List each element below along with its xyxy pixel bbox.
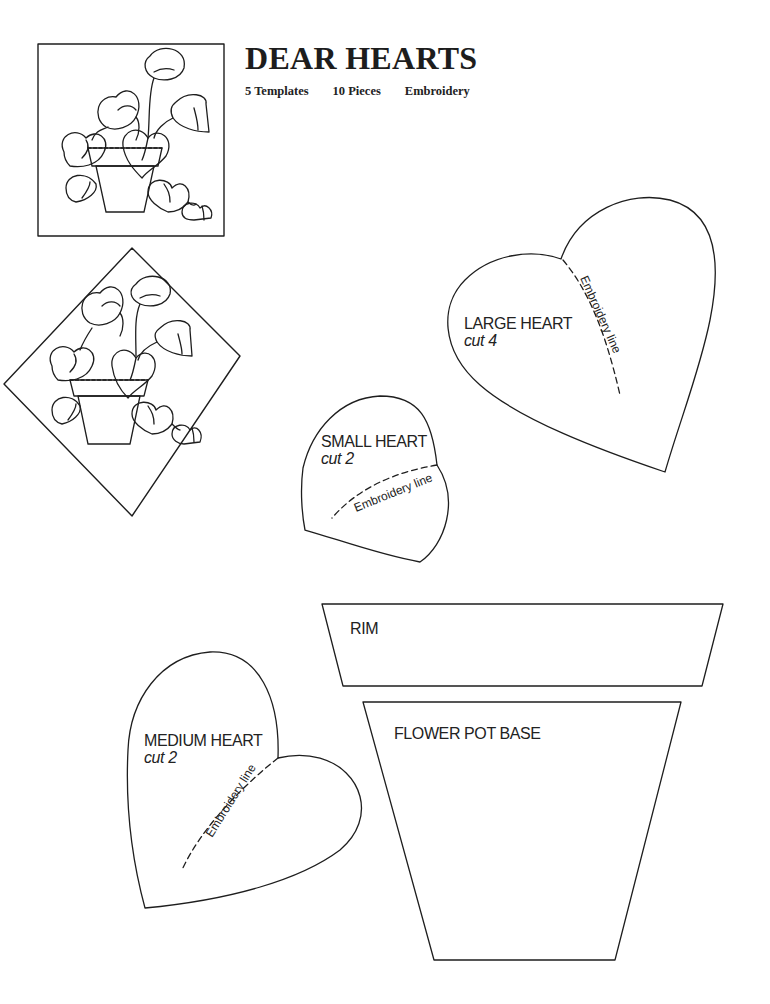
medium-heart-cut: cut 2	[144, 750, 262, 767]
large-heart-label: LARGE HEART cut 4	[464, 316, 572, 350]
flower-pot-base-label: FLOWER POT BASE	[394, 726, 541, 743]
medium-heart-label: MEDIUM HEART cut 2	[144, 733, 262, 767]
large-heart-embroidery-label: Embroidery line	[577, 274, 624, 356]
small-heart-name: SMALL HEART	[321, 433, 427, 450]
small-heart-label: SMALL HEART cut 2	[321, 434, 427, 468]
medium-heart-embroidery-label: Embroidery line	[203, 761, 259, 839]
small-heart-cut: cut 2	[321, 451, 427, 468]
large-heart-cut: cut 4	[464, 333, 572, 350]
rim-label: RIM	[350, 621, 378, 638]
rim-template	[322, 604, 723, 686]
diamond-block-illustration	[4, 248, 240, 516]
large-heart-name: LARGE HEART	[464, 315, 572, 332]
medium-heart-name: MEDIUM HEART	[144, 732, 262, 749]
square-block-illustration	[38, 44, 224, 236]
